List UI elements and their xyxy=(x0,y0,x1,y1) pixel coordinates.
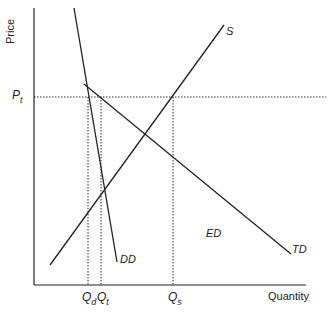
qs-label: Qs xyxy=(168,290,182,304)
qd-label: Qd xyxy=(82,290,96,304)
supply-curve xyxy=(50,25,224,265)
x-axis-label: Quantity xyxy=(268,290,309,302)
total-demand-curve xyxy=(84,84,291,254)
export-demand-label: ED xyxy=(206,227,221,239)
diagram-canvas xyxy=(0,0,332,312)
y-axis-label: Price xyxy=(4,19,16,44)
supply-label: S xyxy=(226,25,233,37)
price-label: Pt xyxy=(12,88,23,102)
qt-label: Qt xyxy=(97,290,109,304)
domestic-demand-label: DD xyxy=(120,253,136,265)
total-demand-label: TD xyxy=(292,243,307,255)
